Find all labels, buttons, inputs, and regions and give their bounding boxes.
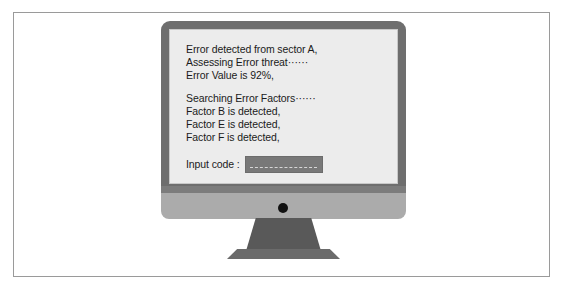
monitor-stand-base [227,249,340,259]
terminal-line: Factor B is detected, [186,105,389,118]
terminal-line: Factor E is detected, [186,118,389,131]
monitor-chin [161,193,406,219]
input-code-label: Input code : [186,158,240,171]
terminal-line: Error Value is 92%, [186,69,389,82]
power-indicator-icon [278,203,288,213]
input-underline [250,167,317,168]
illustration-frame: Error detected from sector A, Assessing … [13,12,550,277]
terminal-text-block: Error detected from sector A, Assessing … [186,43,389,144]
terminal-line-blank [186,83,389,92]
input-code-field[interactable] [245,156,323,173]
terminal-line: Searching Error Factors······ [186,92,389,105]
terminal-line: Assessing Error threat······ [186,56,389,69]
monitor-lower-bezel-band [161,186,406,193]
monitor-bezel: Error detected from sector A, Assessing … [161,21,406,192]
terminal-line: Error detected from sector A, [186,43,389,56]
input-code-row: Input code : [186,156,323,173]
desktop-computer-illustration: Error detected from sector A, Assessing … [161,21,406,216]
monitor-stand-neck [246,218,321,251]
monitor-screen: Error detected from sector A, Assessing … [169,29,398,184]
terminal-line: Factor F is detected, [186,131,389,144]
